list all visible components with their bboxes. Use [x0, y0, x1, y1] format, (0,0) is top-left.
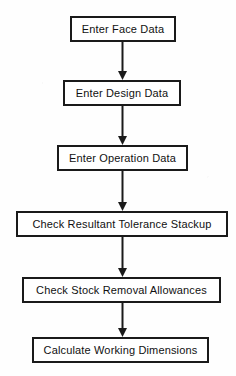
flowchart-figure: Enter Face Data Enter Design Data Enter … [0, 0, 236, 376]
flow-node-calculate-working-dimensions[interactable]: Calculate Working Dimensions [32, 337, 209, 363]
figure-caption [0, 364, 236, 376]
flow-arrow-down-icon-5 [110, 303, 135, 337]
flow-node-enter-design-data[interactable]: Enter Design Data [63, 80, 181, 106]
flow-node-label: Enter Face Data [82, 24, 164, 35]
flow-node-enter-operation-data[interactable]: Enter Operation Data [57, 145, 188, 171]
flow-node-check-stock-removal-allowances[interactable]: Check Stock Removal Allowances [22, 277, 221, 303]
flow-node-label: Enter Design Data [76, 88, 168, 99]
flow-node-enter-face-data[interactable]: Enter Face Data [70, 16, 176, 42]
flow-arrow-down-icon-3 [110, 171, 135, 211]
flow-node-check-resultant-tolerance-stackup[interactable]: Check Resultant Tolerance Stackup [16, 211, 228, 237]
flow-arrow-down-icon-1 [110, 42, 135, 80]
flow-node-label: Enter Operation Data [69, 153, 176, 164]
flow-arrow-down-icon-2 [110, 106, 135, 145]
flow-arrow-down-icon-4 [110, 237, 135, 277]
flow-node-label: Check Stock Removal Allowances [36, 285, 207, 296]
flow-node-label: Check Resultant Tolerance Stackup [32, 219, 211, 230]
flow-node-label: Calculate Working Dimensions [44, 345, 198, 356]
